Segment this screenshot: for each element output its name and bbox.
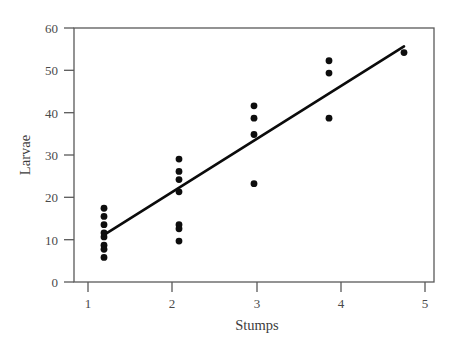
y-tick-label-10: 10	[45, 233, 58, 248]
y-tick-label-30: 30	[45, 148, 58, 163]
data-point	[101, 234, 108, 241]
x-tick-label-2: 2	[169, 296, 176, 311]
plot-canvas: 60 50 40 30 20 10 0 1 2 3 4 5 Stumps Lar…	[0, 0, 460, 346]
data-point	[101, 213, 108, 220]
data-point	[176, 156, 183, 163]
x-tick-label-4: 4	[338, 296, 345, 311]
data-point	[101, 205, 108, 212]
data-point	[176, 225, 183, 232]
data-point	[101, 221, 108, 228]
x-tick-label-5: 5	[422, 296, 429, 311]
data-point	[176, 188, 183, 195]
y-tick-label-40: 40	[45, 106, 58, 121]
data-point	[401, 49, 408, 56]
data-point	[176, 176, 183, 183]
y-axis-ticks	[64, 28, 74, 282]
y-tick-label-20: 20	[45, 190, 58, 205]
regression-fit-line	[104, 46, 404, 234]
data-point	[101, 254, 108, 261]
y-tick-label-60: 60	[45, 21, 58, 36]
y-axis-title: Larvae	[17, 135, 33, 175]
data-point	[176, 238, 183, 245]
x-axis-title: Stumps	[235, 317, 279, 333]
data-point	[326, 115, 333, 122]
x-axis-ticks	[88, 282, 425, 292]
data-points-layer	[101, 49, 408, 261]
data-point	[251, 102, 258, 109]
data-point	[176, 168, 183, 175]
x-axis-tick-labels: 1 2 3 4 5	[85, 296, 429, 311]
y-tick-label-0: 0	[52, 275, 59, 290]
data-point	[326, 70, 333, 77]
plot-frame	[74, 28, 434, 282]
data-point	[101, 246, 108, 253]
y-axis-tick-labels: 60 50 40 30 20 10 0	[45, 21, 58, 290]
data-point	[251, 131, 258, 138]
data-point	[251, 115, 258, 122]
data-point	[251, 180, 258, 187]
y-tick-label-50: 50	[45, 63, 58, 78]
data-point	[326, 57, 333, 64]
x-tick-label-1: 1	[85, 296, 92, 311]
scatter-plot-figure: 60 50 40 30 20 10 0 1 2 3 4 5 Stumps Lar…	[0, 0, 460, 346]
x-tick-label-3: 3	[254, 296, 261, 311]
